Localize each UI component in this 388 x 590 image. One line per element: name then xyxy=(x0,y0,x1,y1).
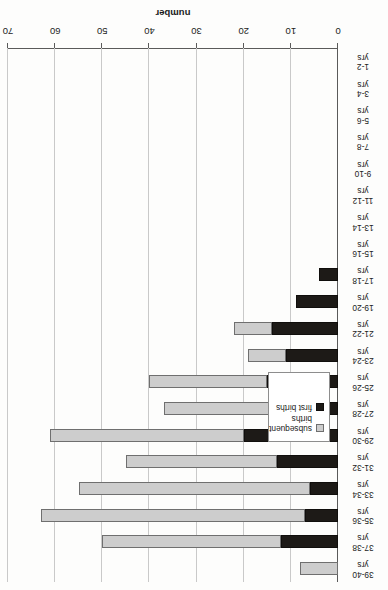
category-label-range: 33-34 xyxy=(340,489,386,499)
category-label-unit: yrs xyxy=(340,292,386,302)
category-label-range: 31-32 xyxy=(340,462,386,472)
category-label-31-32: 31-32yrs xyxy=(340,452,386,471)
bar-21-22 xyxy=(234,322,338,335)
legend-label-line1: first births xyxy=(276,403,312,413)
bar-segment-first-births-31-32 xyxy=(277,455,338,468)
category-label-unit: yrs xyxy=(340,452,386,462)
category-label-35-36: 35-36yrs xyxy=(340,506,386,525)
bar-35-36 xyxy=(41,509,338,522)
category-label-range: 37-38 xyxy=(340,542,386,552)
category-label-3-4: 3-4yrs xyxy=(340,79,386,98)
category-label-range: 13-14 xyxy=(340,222,386,232)
plot-frame xyxy=(8,48,338,582)
gridline-10 xyxy=(290,48,291,582)
category-label-1-2: 1-2yrs xyxy=(340,52,386,71)
gridline-60 xyxy=(54,48,55,582)
gridline-40 xyxy=(148,48,149,582)
category-label-39-40: 39-40yrs xyxy=(340,559,386,578)
category-label-unit: yrs xyxy=(340,479,386,489)
legend-swatch-first-births xyxy=(316,403,324,411)
value-tick-70 xyxy=(7,43,8,48)
category-label-unit: yrs xyxy=(340,79,386,89)
category-label-range: 35-36 xyxy=(340,515,386,525)
bar-segment-subsequent-births-25-26 xyxy=(149,375,267,388)
category-label-unit: yrs xyxy=(340,159,386,169)
category-label-unit: yrs xyxy=(340,265,386,275)
value-tick-label-60: 60 xyxy=(50,26,61,37)
category-label-range: 27-28 xyxy=(340,408,386,418)
category-label-range: 23-24 xyxy=(340,355,386,365)
category-label-unit: yrs xyxy=(340,185,386,195)
legend-label-line2: births xyxy=(292,415,312,425)
category-label-5-6: 5-6yrs xyxy=(340,105,386,124)
category-label-19-20: 19-20yrs xyxy=(340,292,386,311)
category-label-range: 17-18 xyxy=(340,275,386,285)
category-label-range: 39-40 xyxy=(340,569,386,579)
category-label-9-10: 9-10yrs xyxy=(340,159,386,178)
bar-segment-subsequent-births-27-28 xyxy=(164,402,272,415)
category-label-unit: yrs xyxy=(340,212,386,222)
bar-segment-first-births-19-20 xyxy=(296,295,338,308)
category-label-37-38: 37-38yrs xyxy=(340,532,386,551)
bar-segment-subsequent-births-33-34 xyxy=(79,482,310,495)
category-label-unit: yrs xyxy=(340,532,386,542)
bar-39-40 xyxy=(300,562,338,575)
bar-segment-first-births-37-38 xyxy=(281,535,338,548)
category-label-range: 25-26 xyxy=(340,382,386,392)
value-axis-title: number xyxy=(156,8,191,19)
value-tick-60 xyxy=(54,43,55,48)
category-label-13-14: 13-14yrs xyxy=(340,212,386,231)
bar-17-18 xyxy=(319,268,338,281)
rotated-figure-wrapper: 010203040506070 number 1-2yrs3-4yrs5-6yr… xyxy=(0,0,388,590)
bar-33-34 xyxy=(79,482,338,495)
value-tick-label-0: 0 xyxy=(335,26,340,37)
bar-segment-first-births-35-36 xyxy=(305,509,338,522)
value-tick-50 xyxy=(101,43,102,48)
value-tick-40 xyxy=(148,43,149,48)
legend-swatch-subsequent-births xyxy=(316,424,324,432)
bar-segment-subsequent-births-31-32 xyxy=(126,455,277,468)
bar-19-20 xyxy=(296,295,338,308)
value-tick-label-20: 20 xyxy=(238,26,249,37)
category-label-33-34: 33-34yrs xyxy=(340,479,386,498)
gridline-70 xyxy=(7,48,8,582)
category-label-unit: yrs xyxy=(340,559,386,569)
bar-segment-subsequent-births-23-24 xyxy=(248,349,286,362)
category-label-range: 5-6 xyxy=(340,115,386,125)
category-label-unit: yrs xyxy=(340,319,386,329)
gridline-20 xyxy=(243,48,244,582)
value-tick-0 xyxy=(337,43,338,48)
category-label-21-22: 21-22yrs xyxy=(340,319,386,338)
gridline-30 xyxy=(196,48,197,582)
value-tick-10 xyxy=(290,43,291,48)
legend: subsequent births first births xyxy=(268,372,330,442)
bar-segment-subsequent-births-37-38 xyxy=(102,535,281,548)
legend-item-subsequent-births: subsequent births xyxy=(274,414,324,433)
category-label-27-28: 27-28yrs xyxy=(340,399,386,418)
value-tick-label-30: 30 xyxy=(191,26,202,37)
category-label-29-30: 29-30yrs xyxy=(340,426,386,445)
category-label-25-26: 25-26yrs xyxy=(340,372,386,391)
value-tick-30 xyxy=(196,43,197,48)
category-label-range: 3-4 xyxy=(340,88,386,98)
category-label-range: 1-2 xyxy=(340,61,386,71)
category-label-17-18: 17-18yrs xyxy=(340,265,386,284)
category-label-23-24: 23-24yrs xyxy=(340,346,386,365)
category-label-range: 15-16 xyxy=(340,248,386,258)
legend-item-first-births: first births xyxy=(274,403,324,413)
bar-23-24 xyxy=(248,349,338,362)
legend-label-first-births: first births xyxy=(276,403,312,413)
category-label-unit: yrs xyxy=(340,132,386,142)
category-label-unit: yrs xyxy=(340,346,386,356)
bar-segment-first-births-21-22 xyxy=(272,322,338,335)
legend-label-line1: subsequent xyxy=(269,424,312,434)
value-tick-label-50: 50 xyxy=(97,26,108,37)
bar-37-38 xyxy=(102,535,338,548)
value-tick-label-70: 70 xyxy=(3,26,14,37)
category-label-unit: yrs xyxy=(340,372,386,382)
category-label-range: 7-8 xyxy=(340,141,386,151)
category-label-range: 11-12 xyxy=(340,195,386,205)
bar-segment-first-births-33-34 xyxy=(310,482,338,495)
legend-label-subsequent-births: subsequent births xyxy=(269,414,312,433)
category-label-range: 9-10 xyxy=(340,168,386,178)
